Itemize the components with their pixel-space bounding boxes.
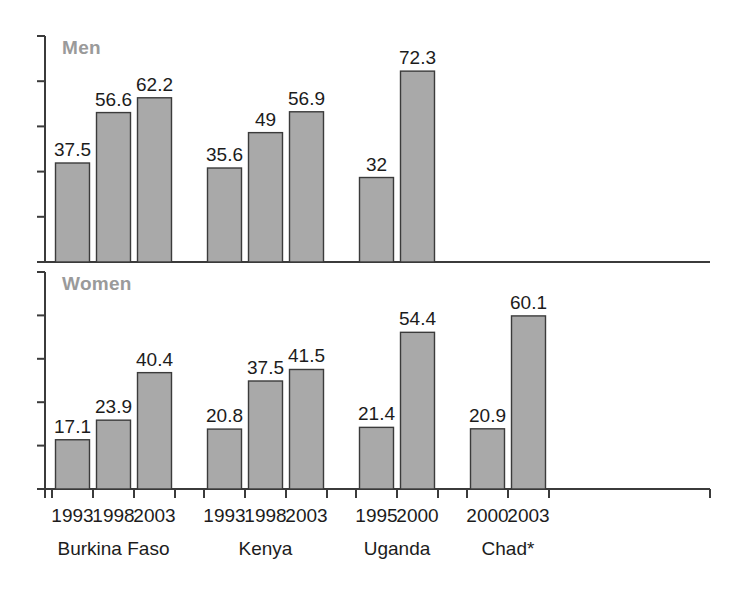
bar[interactable] (360, 178, 394, 262)
bar[interactable] (97, 113, 131, 262)
bar-value-label: 23.9 (95, 396, 132, 417)
bar[interactable] (208, 168, 242, 262)
panel-title-men: Men (62, 37, 101, 58)
bar-value-label: 56.6 (95, 89, 132, 110)
x-axis-country-label: Kenya (239, 538, 293, 559)
panel-women: Women17.123.940.420.837.541.521.454.420.… (37, 272, 710, 489)
bar[interactable] (56, 440, 90, 489)
bar-value-label: 56.9 (288, 88, 325, 109)
bar[interactable] (471, 429, 505, 489)
bar[interactable] (97, 420, 131, 489)
bar-value-label: 60.1 (510, 292, 547, 313)
bar-value-label: 40.4 (136, 349, 173, 370)
bar-value-label: 37.5 (54, 139, 91, 160)
bar[interactable] (401, 332, 435, 489)
bar-value-label: 62.2 (136, 74, 173, 95)
bar[interactable] (249, 381, 283, 489)
bar[interactable] (290, 369, 324, 489)
x-axis-year-label: 2003 (133, 505, 175, 526)
x-axis-year-label: 2000 (396, 505, 438, 526)
bar-value-label: 35.6 (206, 144, 243, 165)
bar-value-label: 72.3 (399, 47, 436, 68)
bar-value-label: 41.5 (288, 345, 325, 366)
panel-title-women: Women (62, 273, 132, 294)
x-axis-year-label: 1998 (92, 505, 134, 526)
bar-value-label: 32 (366, 154, 387, 175)
x-axis-country-label: Burkina Faso (58, 538, 170, 559)
bar[interactable] (138, 98, 172, 262)
bar[interactable] (512, 316, 546, 489)
panel-men: Men37.556.662.235.64956.93272.3 (37, 36, 710, 262)
x-axis-year-label: 1998 (244, 505, 286, 526)
bar-value-label: 20.8 (206, 405, 243, 426)
x-axis-country-label: Uganda (364, 538, 431, 559)
bar-value-label: 54.4 (399, 308, 436, 329)
chart-container: Men37.556.662.235.64956.93272.3 Women17.… (0, 0, 747, 604)
bar-value-label: 20.9 (469, 405, 506, 426)
bar[interactable] (208, 429, 242, 489)
x-axis-year-label: 1993 (203, 505, 245, 526)
bar-value-label: 17.1 (54, 416, 91, 437)
x-axis-year-label: 1993 (51, 505, 93, 526)
x-axis-year-label: 2000 (466, 505, 508, 526)
bar[interactable] (401, 71, 435, 262)
x-axis-year-label: 1995 (355, 505, 397, 526)
bar-value-label: 37.5 (247, 357, 284, 378)
x-axis-country-label: Chad* (482, 538, 535, 559)
bar[interactable] (249, 133, 283, 262)
x-axis-year-label: 2003 (285, 505, 327, 526)
bar[interactable] (290, 112, 324, 262)
bar[interactable] (360, 427, 394, 489)
grouped-bar-chart: Men37.556.662.235.64956.93272.3 Women17.… (0, 0, 747, 604)
bar-value-label: 49 (255, 109, 276, 130)
x-axis-year-label: 2003 (507, 505, 549, 526)
bar[interactable] (138, 373, 172, 489)
bar[interactable] (56, 163, 90, 262)
x-axis-labels: 199319982003Burkina Faso199319982003Keny… (45, 489, 710, 559)
bar-value-label: 21.4 (358, 403, 395, 424)
